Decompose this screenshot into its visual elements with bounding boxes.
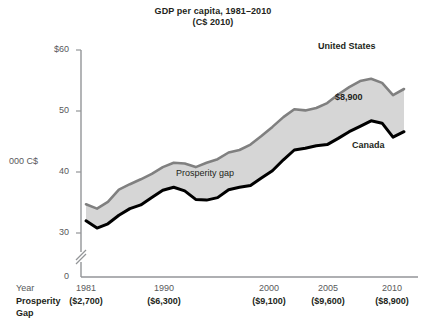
gap-value-2005: ($9,600) bbox=[294, 296, 362, 306]
series-label-canada: Canada bbox=[352, 140, 385, 150]
y-tick-label-30: 30 bbox=[33, 227, 69, 237]
y-axis-label: 000 C$ bbox=[9, 156, 38, 166]
y-tick-label-zero: 0 bbox=[33, 271, 69, 281]
row-label-year: Year bbox=[16, 283, 34, 293]
row-label-prosperity-gap-line2: Gap bbox=[16, 308, 34, 318]
x-tick-label-2010: 2010 bbox=[368, 283, 416, 293]
y-tick-label-60: $60 bbox=[33, 44, 69, 54]
gap-value-1990: ($6,300) bbox=[130, 296, 198, 306]
series-label-united-states: United States bbox=[318, 41, 376, 51]
gap-value-2010: ($8,900) bbox=[358, 296, 426, 306]
x-tick-label-2005: 2005 bbox=[304, 283, 352, 293]
endpoint-value-label: $8,900 bbox=[335, 92, 363, 102]
x-tick-label-1981: 1981 bbox=[62, 283, 110, 293]
y-tick-label-40: 40 bbox=[33, 166, 69, 176]
x-tick-label-1990: 1990 bbox=[140, 283, 188, 293]
chart-figure: GDP per capita, 1981–2010 (C$ 2010) $60 … bbox=[0, 0, 426, 326]
y-tick-label-50: 50 bbox=[33, 105, 69, 115]
x-tick-label-2000: 2000 bbox=[245, 283, 293, 293]
gap-value-1981: ($2,700) bbox=[52, 296, 120, 306]
prosperity-gap-annotation: Prosperity gap bbox=[176, 168, 234, 178]
gap-value-2000: ($9,100) bbox=[235, 296, 303, 306]
